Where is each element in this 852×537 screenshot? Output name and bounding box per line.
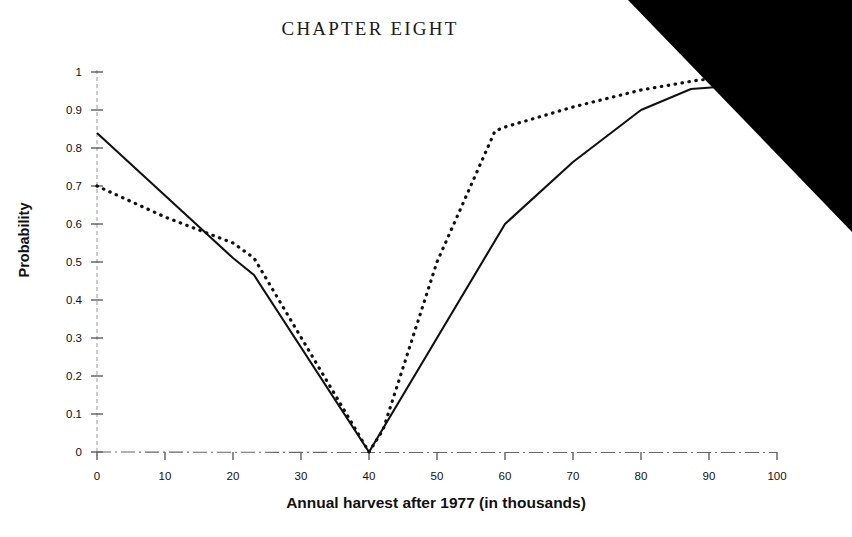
x-tick-label: 50 <box>417 470 457 482</box>
y-tick-label: 1 <box>48 66 82 78</box>
series-baseline <box>97 452 777 453</box>
y-tick-label: 0.9 <box>48 104 82 116</box>
y-tick-label: 0.4 <box>48 294 82 306</box>
scanned-book-page: CHAPTER EIGHT <box>0 0 852 537</box>
x-tick-label: 70 <box>553 470 593 482</box>
x-tick-label: 60 <box>485 470 525 482</box>
x-tick-label: 20 <box>213 470 253 482</box>
x-axis-ticks <box>97 452 777 460</box>
y-tick-label: 0.5 <box>48 256 82 268</box>
y-tick-label: 0.1 <box>48 408 82 420</box>
y-tick-label: 0.8 <box>48 142 82 154</box>
x-tick-label: 40 <box>349 470 389 482</box>
x-tick-label: 100 <box>757 470 797 482</box>
y-tick-label: 0 <box>48 446 82 458</box>
y-tick-label: 0.3 <box>48 332 82 344</box>
x-tick-label: 90 <box>689 470 729 482</box>
x-axis-title: Annual harvest after 1977 (in thousands) <box>97 494 775 512</box>
series-solid-curve <box>97 86 731 452</box>
y-tick-label: 0.2 <box>48 370 82 382</box>
y-tick-label: 0.7 <box>48 180 82 192</box>
x-tick-label: 80 <box>621 470 661 482</box>
y-axis-title: Probability <box>16 175 32 305</box>
x-tick-label: 10 <box>145 470 185 482</box>
x-tick-label: 0 <box>77 470 117 482</box>
series-dotted-curve <box>97 78 730 452</box>
x-tick-label: 30 <box>281 470 321 482</box>
y-tick-label: 0.6 <box>48 218 82 230</box>
